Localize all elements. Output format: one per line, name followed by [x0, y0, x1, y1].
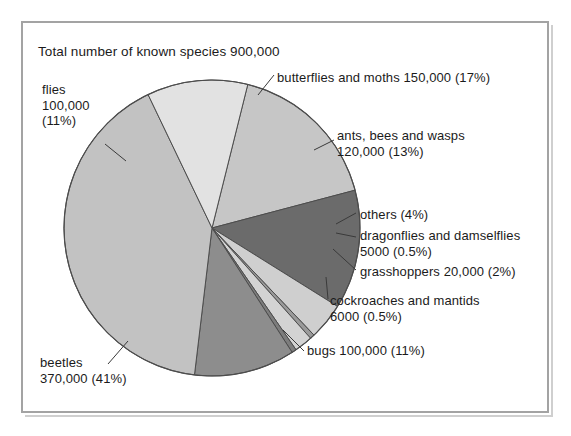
slice-label-others-line1: others (4%) — [360, 207, 428, 222]
slice-label-ants-line2: 120,000 (13%) — [337, 144, 465, 160]
pie-slices-group — [64, 80, 360, 376]
slice-label-flies-line2: 100,000 — [42, 98, 90, 114]
slice-label-ants-line1: ants, bees and wasps — [337, 128, 465, 143]
slice-label-dragonflies: dragonflies and damselflies 5000 (0.5%) — [360, 228, 520, 259]
slice-label-flies: flies 100,000 (11%) — [42, 82, 90, 129]
slice-label-flies-line3: (11%) — [42, 113, 90, 129]
slice-label-beetles: beetles 370,000 (41%) — [40, 355, 127, 386]
slice-label-others: others (4%) — [360, 207, 428, 223]
slice-label-ants: ants, bees and wasps 120,000 (13%) — [337, 128, 465, 159]
slice-label-flies-line1: flies — [42, 82, 66, 97]
slice-label-cockroaches-line2: 6000 (0.5%) — [330, 309, 480, 325]
slice-label-grasshoppers-line1: grasshoppers 20,000 (2%) — [360, 264, 516, 279]
slice-label-butterflies: butterflies and moths 150,000 (17%) — [277, 70, 490, 86]
slice-label-grasshoppers: grasshoppers 20,000 (2%) — [360, 264, 516, 280]
slice-label-cockroaches-line1: cockroaches and mantids — [330, 293, 480, 308]
slice-label-beetles-line1: beetles — [40, 355, 83, 370]
slice-label-bugs-line1: bugs 100,000 (11%) — [307, 343, 425, 358]
slice-label-dragonflies-line1: dragonflies and damselflies — [360, 228, 520, 243]
slice-label-dragonflies-line2: 5000 (0.5%) — [360, 244, 520, 260]
pie-chart-figure: Total number of known species 900,000 bu… — [0, 0, 571, 436]
slice-label-bugs: bugs 100,000 (11%) — [307, 343, 425, 359]
slice-label-butterflies-line1: butterflies and moths 150,000 (17%) — [277, 70, 490, 85]
slice-label-beetles-line2: 370,000 (41%) — [40, 371, 127, 387]
slice-label-cockroaches: cockroaches and mantids 6000 (0.5%) — [330, 293, 480, 324]
